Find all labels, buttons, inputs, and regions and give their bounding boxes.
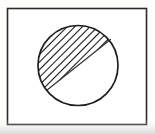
- scan-shadow-overlay: [0, 118, 155, 134]
- figure-container: A rectangular frame enclosing a circle. …: [0, 0, 155, 134]
- circle-hatched-segment-figure: [0, 0, 155, 134]
